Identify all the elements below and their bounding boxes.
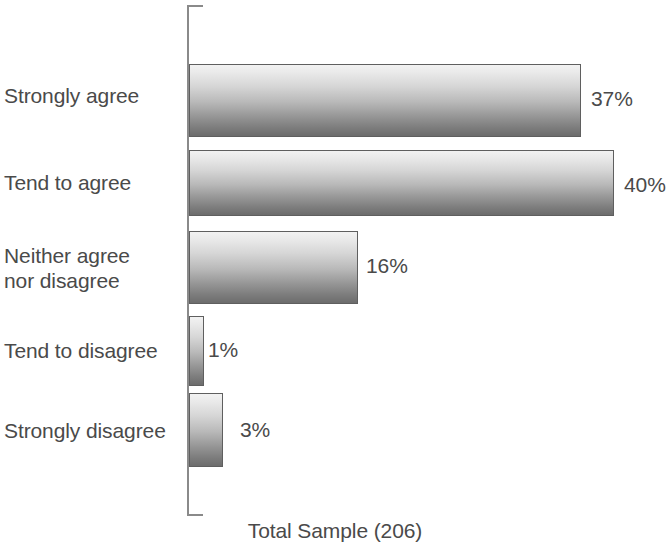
bar-tend-to-agree	[189, 150, 614, 216]
category-label-tend-to-agree: Tend to agree	[4, 170, 184, 195]
value-label-neither-agree-nor-disagree: 16%	[366, 255, 408, 276]
axis-cap-top	[187, 5, 203, 7]
value-label-strongly-agree: 37%	[591, 88, 633, 109]
chart-caption: Total Sample (206)	[0, 518, 666, 544]
bar-strongly-agree	[189, 64, 581, 137]
value-label-strongly-disagree: 3%	[240, 419, 270, 440]
bar-tend-to-disagree	[189, 316, 204, 386]
category-label-strongly-agree: Strongly agree	[4, 83, 184, 108]
category-label-tend-to-disagree: Tend to disagree	[4, 338, 184, 363]
category-label-strongly-disagree: Strongly disagree	[4, 418, 184, 443]
value-label-tend-to-disagree: 1%	[208, 339, 238, 360]
horizontal-bar-chart: Strongly agree Tend to agree Neither agr…	[0, 0, 666, 555]
category-label-neither-agree-nor-disagree: Neither agree nor disagree	[4, 243, 184, 293]
value-label-tend-to-agree: 40%	[624, 174, 666, 195]
axis-cap-bottom	[187, 514, 203, 516]
bar-neither-agree-nor-disagree	[189, 231, 358, 304]
bar-strongly-disagree	[189, 393, 223, 467]
